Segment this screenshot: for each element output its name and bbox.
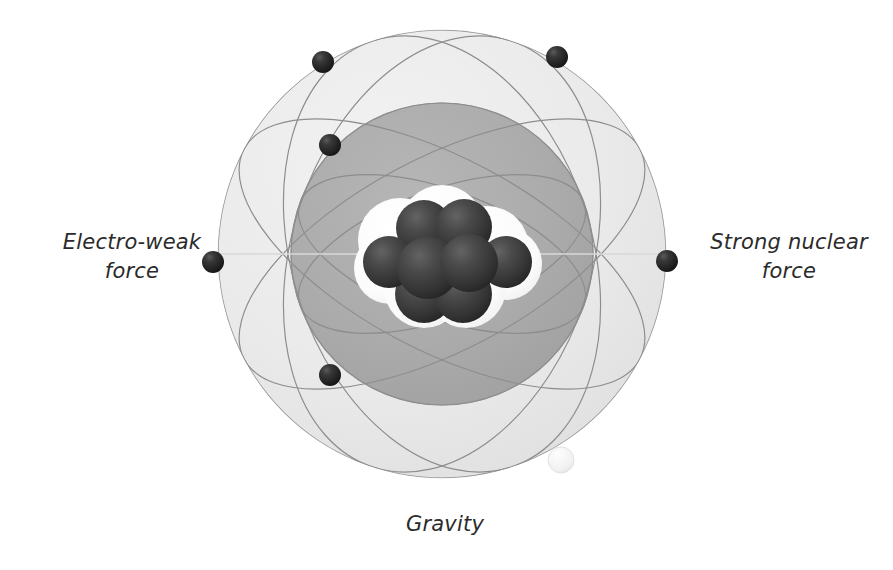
electron-top-right bbox=[546, 46, 568, 68]
small-satellite-sphere bbox=[548, 447, 574, 473]
electron-top-left bbox=[312, 51, 334, 73]
label-electro-weak-force: Electro-weak force bbox=[48, 228, 216, 286]
electron-lower-left bbox=[319, 364, 341, 386]
label-gravity: Gravity bbox=[340, 510, 550, 539]
nucleon-dark-mid-right bbox=[440, 234, 498, 292]
electron-upper-left bbox=[319, 134, 341, 156]
label-strong-nuclear-force: Strong nuclear force bbox=[694, 228, 884, 286]
electron-right bbox=[656, 250, 678, 272]
diagram-stage: Electro-weak force Strong nuclear force … bbox=[0, 0, 893, 570]
